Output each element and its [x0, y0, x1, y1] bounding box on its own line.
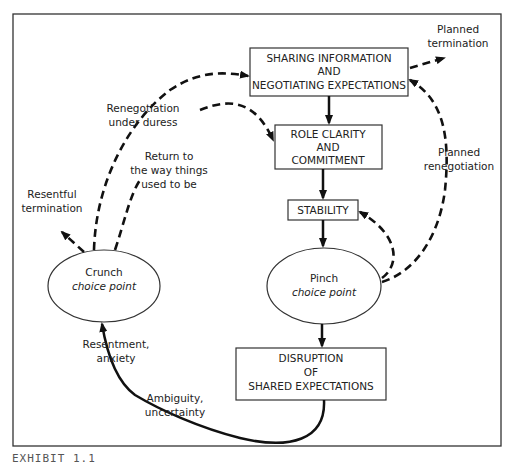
svg-text:termination: termination: [427, 37, 488, 49]
box-text: OF: [304, 366, 318, 378]
label-resentful-termination: Resentful termination: [21, 188, 82, 214]
svg-text:termination: termination: [21, 202, 82, 214]
label-return-to: Return to the way things used to be: [130, 150, 208, 190]
label-planned-renegotiation: Planned renegotiation: [424, 146, 494, 172]
ellipse-subtitle: choice point: [72, 280, 137, 292]
svg-text:under duress: under duress: [109, 116, 178, 128]
box-text: COMMITMENT: [291, 154, 365, 166]
svg-text:Ambiguity,: Ambiguity,: [147, 392, 204, 404]
svg-text:Planned: Planned: [438, 146, 480, 158]
svg-text:uncertainty: uncertainty: [145, 406, 205, 418]
box-text: NEGOTIATING EXPECTATIONS: [252, 79, 406, 91]
ellipse-title: Crunch: [85, 266, 122, 278]
box-text: AND: [316, 141, 339, 153]
ellipse-subtitle: choice point: [292, 286, 357, 298]
box-text: SHARING INFORMATION: [266, 52, 391, 64]
box-stability: STABILITY: [288, 200, 358, 220]
box-text: DISRUPTION: [279, 352, 344, 364]
svg-text:the way things: the way things: [130, 164, 208, 176]
svg-text:Planned: Planned: [437, 23, 479, 35]
ellipse-pinch: Pinch choice point: [267, 248, 381, 324]
box-text: AND: [317, 65, 340, 77]
box-sharing-information: SHARING INFORMATION AND NEGOTIATING EXPE…: [250, 48, 408, 96]
box-text: ROLE CLARITY: [290, 128, 366, 140]
box-text: SHARED EXPECTATIONS: [248, 380, 374, 392]
svg-text:Resentful: Resentful: [27, 188, 76, 200]
ellipse-title: Pinch: [310, 272, 338, 284]
box-disruption: DISRUPTION OF SHARED EXPECTATIONS: [236, 348, 386, 400]
ellipse-crunch: Crunch choice point: [48, 250, 160, 322]
svg-text:Resentment,: Resentment,: [83, 338, 150, 350]
svg-text:renegotiation: renegotiation: [424, 160, 494, 172]
svg-text:used to be: used to be: [141, 178, 197, 190]
box-text: STABILITY: [297, 204, 349, 216]
label-planned-termination: Planned termination: [427, 23, 488, 49]
box-role-clarity: ROLE CLARITY AND COMMITMENT: [275, 125, 382, 169]
label-resentment: Resentment, anxiety: [83, 338, 150, 364]
svg-text:Return to: Return to: [145, 150, 194, 162]
svg-text:anxiety: anxiety: [96, 352, 135, 364]
svg-text:Renegotiation: Renegotiation: [106, 102, 179, 114]
figure-caption: EXHIBIT 1.1: [12, 452, 96, 465]
